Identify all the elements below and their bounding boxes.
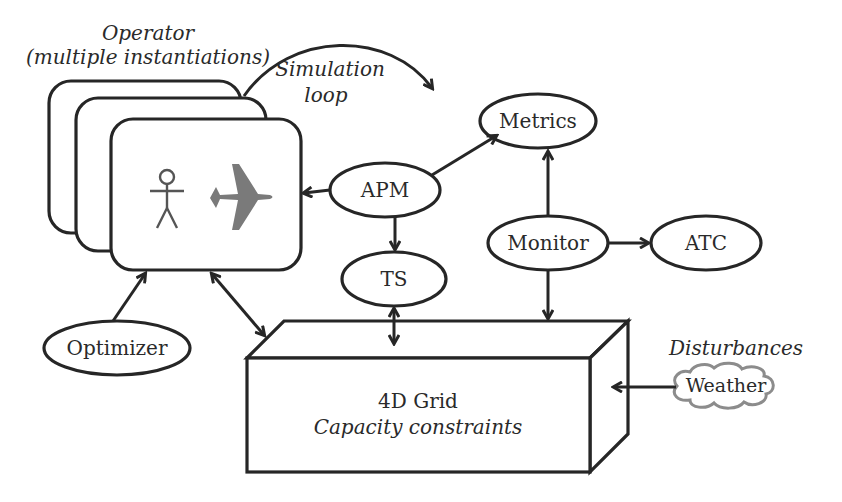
operator-sublabel: (multiple instantiations) — [26, 45, 270, 69]
weather-label: Weather — [686, 374, 768, 396]
edge-apm-operator — [304, 190, 330, 193]
simulation-loop-label-line1: Simulation — [275, 57, 385, 81]
ts-label: TS — [380, 267, 407, 291]
grid-box-top — [247, 321, 628, 358]
system-architecture-diagram: Operator (multiple instantiations) Simul… — [0, 0, 842, 502]
edge-operator-grid — [212, 274, 264, 335]
operator-label: Operator — [102, 21, 196, 45]
metrics-label: Metrics — [499, 109, 577, 133]
apm-label: APM — [360, 178, 409, 202]
simulation-loop-label-line2: loop — [304, 83, 347, 107]
edge-optimizer-operator — [113, 274, 145, 321]
disturbances-label: Disturbances — [668, 336, 803, 360]
grid-subtitle: Capacity constraints — [314, 415, 523, 439]
grid-title: 4D Grid — [378, 389, 458, 413]
optimizer-label: Optimizer — [67, 336, 168, 360]
edge-apm-metrics — [432, 136, 496, 175]
operator-card-front[interactable] — [111, 119, 301, 270]
atc-label: ATC — [684, 231, 727, 255]
monitor-label: Monitor — [507, 231, 589, 255]
